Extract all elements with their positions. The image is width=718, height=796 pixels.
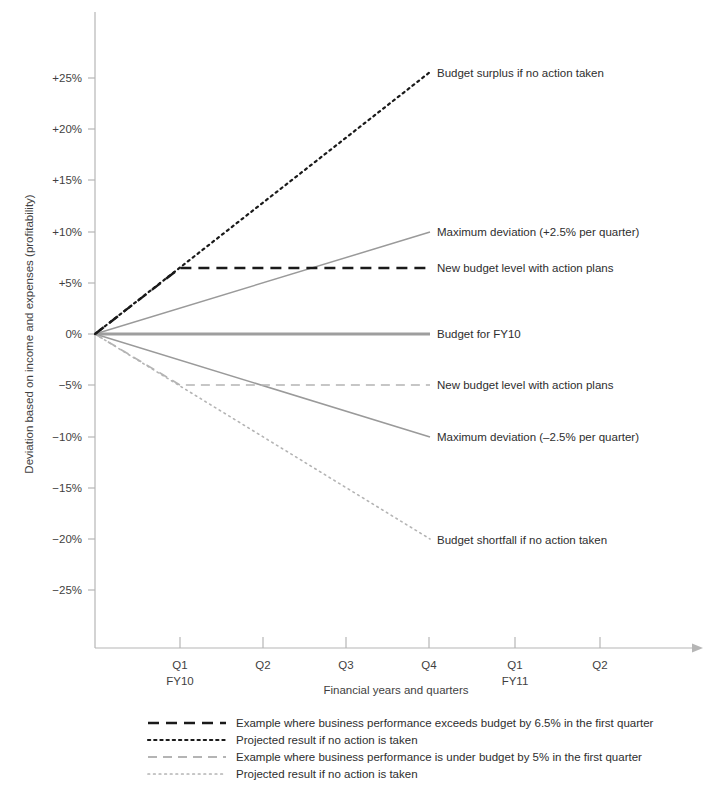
series-new-budget-level-upper: [95, 268, 430, 334]
y-tick-labels: +25% +20% +15% +10% +5% 0% −5% −10% −15%…: [52, 72, 82, 596]
axis-group: [95, 12, 703, 653]
y-tick-label: −25%: [52, 584, 82, 596]
x-ticks: [180, 637, 600, 648]
annotation-budget-for-fy10: Budget for FY10: [437, 328, 521, 340]
legend-item-under-budget: Example where business performance is un…: [148, 751, 642, 763]
y-tick-label: −5%: [59, 379, 82, 391]
legend-label-projected-lower: Projected result if no action is taken: [236, 768, 418, 780]
y-tick-label: −20%: [52, 533, 82, 545]
x-axis-arrow-icon: [692, 644, 703, 653]
y-tick-label: 0%: [65, 328, 82, 340]
x-tick-label: Q2: [255, 659, 270, 671]
annotation-max-deviation-positive: Maximum deviation (+2.5% per quarter): [437, 226, 639, 238]
legend-item-projected-lower: Projected result if no action is taken: [148, 768, 418, 780]
y-tick-label: −15%: [52, 482, 82, 494]
x-tick-labels: Q1 FY10 Q2 Q3 Q4 Q1 FY11 Q2: [166, 659, 607, 687]
y-tick-label: −10%: [52, 431, 82, 443]
legend-label-exceeds-budget: Example where business performance excee…: [236, 717, 654, 729]
chart-figure: +25% +20% +15% +10% +5% 0% −5% −10% −15%…: [0, 0, 718, 796]
annotation-budget-shortfall: Budget shortfall if no action taken: [437, 534, 607, 546]
legend-label-under-budget: Example where business performance is un…: [236, 751, 642, 763]
y-tick-label: +20%: [52, 123, 82, 135]
x-axis-title: Financial years and quarters: [323, 684, 468, 696]
x-tick-label: Q2: [592, 659, 607, 671]
legend-label-projected-upper: Projected result if no action is taken: [236, 734, 418, 746]
annotation-new-budget-level-lower: New budget level with action plans: [437, 379, 614, 391]
legend-item-exceeds-budget: Example where business performance excee…: [148, 717, 654, 729]
x-tick-label: Q3: [338, 659, 353, 671]
annotation-max-deviation-negative: Maximum deviation (–2.5% per quarter): [437, 431, 639, 443]
annotation-new-budget-level-upper: New budget level with action plans: [437, 262, 614, 274]
x-tick-sublabel: FY10: [166, 675, 194, 687]
x-tick-label: Q1: [172, 659, 187, 671]
y-tick-label: +15%: [52, 174, 82, 186]
legend-item-projected-upper: Projected result if no action is taken: [148, 734, 418, 746]
x-tick-label: Q4: [421, 659, 437, 671]
series-new-budget-level-lower: [95, 334, 430, 385]
series-budget-shortfall: [95, 334, 430, 539]
y-tick-label: +5%: [59, 277, 82, 289]
x-tick-sublabel: FY11: [502, 675, 529, 687]
x-tick-label: Q1: [507, 659, 522, 671]
legend: Example where business performance excee…: [148, 717, 654, 780]
chart-svg: +25% +20% +15% +10% +5% 0% −5% −10% −15%…: [0, 0, 718, 796]
y-tick-label: +25%: [52, 72, 82, 84]
y-tick-label: +10%: [52, 226, 82, 238]
y-axis-title: Deviation based on income and expenses (…: [23, 194, 35, 474]
series-max-deviation-positive: [95, 232, 430, 334]
annotation-budget-surplus: Budget surplus if no action taken: [437, 67, 604, 79]
